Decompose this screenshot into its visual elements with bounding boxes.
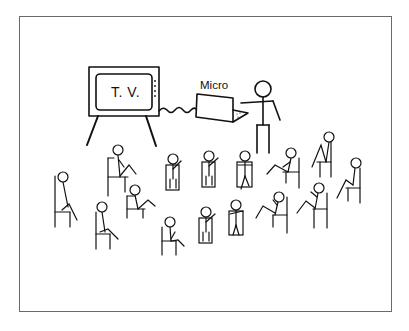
tv-icon: [87, 67, 159, 146]
audience: [55, 132, 361, 255]
computer-icon: [196, 94, 248, 122]
cable: [159, 108, 196, 113]
tv-label: T. V.: [111, 84, 140, 100]
computer-label: Micro: [200, 79, 228, 91]
audience-member: [166, 154, 181, 190]
presenter-figure: [241, 81, 280, 153]
classroom-illustration: [0, 0, 409, 331]
